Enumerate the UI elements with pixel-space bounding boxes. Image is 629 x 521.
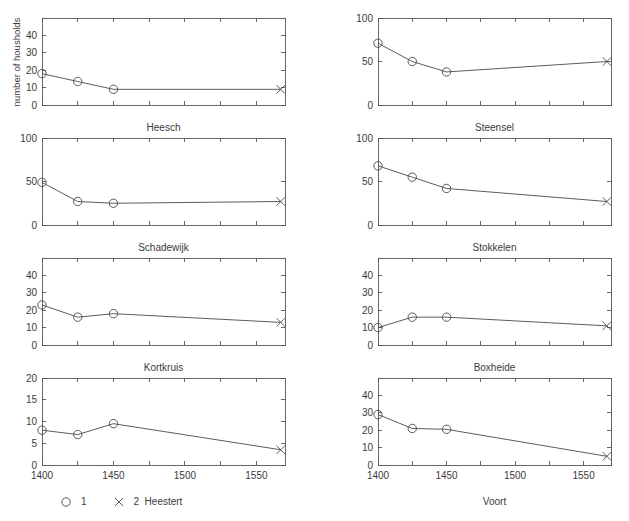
x-tick-label: 1400 — [31, 470, 54, 481]
y-tick-label: 30 — [362, 287, 374, 298]
plot-area-stokkelen: 050100 — [348, 130, 617, 259]
legend-label: 2 — [134, 496, 140, 508]
data-line — [42, 305, 281, 322]
axes-box — [42, 138, 285, 225]
y-tick-label: 100 — [356, 13, 373, 24]
y-tick-label: 20 — [362, 425, 374, 436]
y-tick-label: 10 — [26, 82, 38, 93]
data-line — [378, 415, 607, 457]
x-tick-label: 1400 — [367, 470, 390, 481]
y-tick-label: 10 — [26, 322, 38, 333]
y-tick-label: 50 — [26, 176, 38, 187]
axes-box — [42, 18, 285, 105]
chart-panel-heestert: 051015201400145015001550 — [12, 370, 291, 499]
y-tick-label: 0 — [367, 100, 373, 111]
y-tick-label: 0 — [367, 220, 373, 231]
chart-panel-steensel: 050100 — [348, 10, 617, 139]
plot-area-schadewijk: 050100 — [12, 130, 291, 259]
x-tick-label: 1500 — [504, 470, 527, 481]
chart-panel-kortkruis: 010203040 — [12, 250, 291, 379]
legend-entry-2: 2 — [113, 496, 140, 508]
y-tick-label: 40 — [362, 390, 374, 401]
y-tick-label: 40 — [362, 270, 374, 281]
y-tick-label: 0 — [367, 460, 373, 471]
y-tick-label: 10 — [362, 442, 374, 453]
plot-area-boxheide: 010203040 — [348, 250, 617, 379]
y-tick-label: 40 — [26, 270, 38, 281]
figure-container: number of housholds 010203040Heesch05010… — [0, 0, 629, 521]
y-tick-label: 30 — [26, 47, 38, 58]
y-tick-label: 20 — [362, 305, 374, 316]
y-tick-label: 0 — [31, 100, 37, 111]
plot-area-steensel: 050100 — [348, 10, 617, 139]
y-tick-label: 15 — [26, 394, 38, 405]
plot-area-kortkruis: 010203040 — [12, 250, 291, 379]
y-tick-label: 20 — [26, 373, 38, 384]
axes-box — [378, 378, 611, 465]
data-line — [378, 166, 607, 202]
axes-box — [42, 258, 285, 345]
y-tick-label: 30 — [362, 407, 374, 418]
x-tick-label: 1550 — [572, 470, 595, 481]
chart-panel-boxheide: 010203040 — [348, 250, 617, 379]
y-tick-label: 0 — [31, 340, 37, 351]
chart-legend: 12 — [60, 496, 139, 508]
legend-entry-1: 1 — [60, 496, 87, 508]
data-line — [42, 74, 281, 90]
axes-box — [378, 258, 611, 345]
y-tick-label: 0 — [367, 340, 373, 351]
y-tick-label: 100 — [356, 133, 373, 144]
plot-area-heesch: 010203040 — [12, 10, 291, 139]
chart-panel-schadewijk: 050100 — [12, 130, 291, 259]
chart-panel-stokkelen: 050100 — [348, 130, 617, 259]
x-tick-label: 1450 — [435, 470, 458, 481]
y-tick-label: 100 — [20, 133, 37, 144]
y-tick-label: 40 — [26, 30, 38, 41]
x-tick-label: 1500 — [174, 470, 197, 481]
data-point-cross — [277, 446, 285, 454]
y-tick-label: 50 — [362, 56, 374, 67]
y-tick-label: 30 — [26, 287, 38, 298]
y-tick-label: 5 — [31, 438, 37, 449]
panel-title-voort: Voort — [378, 496, 611, 507]
data-line — [42, 182, 281, 203]
y-tick-label: 0 — [31, 460, 37, 471]
data-line — [378, 317, 607, 327]
y-tick-label: 10 — [26, 416, 38, 427]
chart-panel-voort: 0102030401400145015001550 — [348, 370, 617, 499]
plot-area-voort: 0102030401400145015001550 — [348, 370, 617, 499]
x-tick-label: 1450 — [102, 470, 125, 481]
y-tick-label: 20 — [26, 305, 38, 316]
x-tick-label: 1550 — [245, 470, 268, 481]
plot-area-heestert: 051015201400145015001550 — [12, 370, 291, 499]
circle-marker-icon — [60, 496, 72, 508]
axes-box — [42, 378, 285, 465]
y-tick-label: 50 — [362, 176, 374, 187]
y-tick-label: 20 — [26, 65, 38, 76]
y-tick-label: 0 — [31, 220, 37, 231]
data-point-cross — [603, 452, 611, 460]
data-line — [42, 424, 281, 450]
cross-marker-icon — [113, 496, 125, 508]
chart-panel-heesch: 010203040 — [12, 10, 291, 139]
legend-label: 1 — [81, 496, 87, 508]
y-tick-label: 10 — [362, 322, 374, 333]
